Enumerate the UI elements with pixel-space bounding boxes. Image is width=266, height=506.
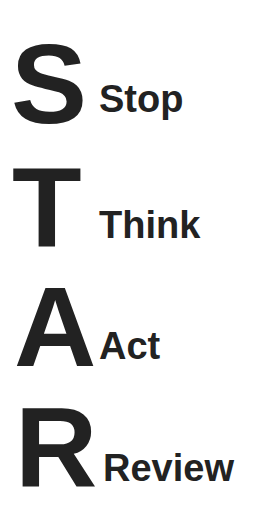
word-act: Act (99, 327, 160, 365)
letter-a: A (14, 270, 96, 384)
word-think: Think (99, 206, 200, 244)
letter-t: T (12, 150, 82, 264)
word-review: Review (103, 449, 234, 487)
letter-s: S (11, 27, 87, 141)
word-stop: Stop (99, 80, 183, 118)
letter-r: R (15, 391, 97, 505)
